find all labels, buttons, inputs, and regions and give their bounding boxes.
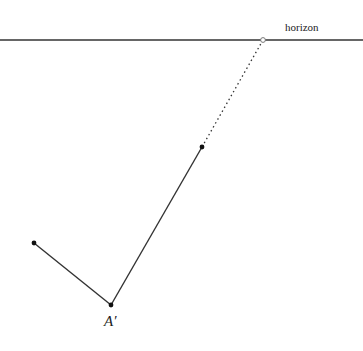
segment-a-prime-to-upper	[111, 147, 202, 305]
point-a-prime-label: A′	[103, 313, 117, 329]
point-upper-end	[200, 145, 205, 150]
segment-left-to-a-prime	[34, 243, 111, 305]
point-left-end	[32, 241, 37, 246]
point-a-prime	[109, 303, 114, 308]
dotted-segment-to-vanishing-point	[202, 40, 263, 147]
horizon-label: horizon	[285, 21, 319, 33]
vanishing-point	[261, 38, 266, 43]
diagram-canvas: horizon A′	[0, 0, 363, 351]
